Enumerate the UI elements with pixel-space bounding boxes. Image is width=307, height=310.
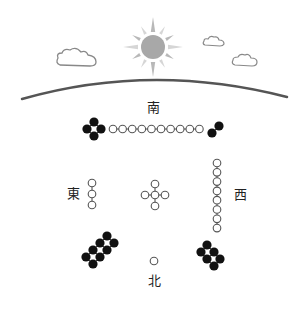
sun-ray — [159, 59, 165, 68]
sun-ray — [159, 26, 165, 35]
cloud-icon — [232, 54, 257, 66]
black-dot — [88, 259, 97, 268]
white-dot — [167, 125, 175, 133]
black-dot — [209, 261, 218, 270]
white-dot — [128, 125, 136, 133]
black-dot — [215, 254, 224, 263]
white-dot — [141, 191, 149, 199]
white-dot — [213, 187, 221, 195]
sun-ray — [141, 26, 147, 35]
black-dot — [89, 117, 98, 126]
white-dot — [196, 125, 204, 133]
black-dot — [96, 124, 105, 133]
white-dot — [213, 224, 221, 232]
black-dot — [109, 238, 118, 247]
black-dot — [81, 252, 90, 261]
white-dot — [150, 257, 158, 265]
black-dot — [82, 124, 91, 133]
luoshu-diagram: 南 東 西 北 — [0, 0, 307, 310]
white-dot — [157, 125, 165, 133]
white-dot — [186, 125, 194, 133]
black-dot — [202, 254, 211, 263]
black-dot — [202, 240, 211, 249]
white-dot — [88, 179, 96, 187]
white-dot — [213, 215, 221, 223]
white-dot — [213, 169, 221, 177]
black-dot — [102, 231, 111, 240]
white-dot — [213, 196, 221, 204]
label-south: 南 — [147, 100, 160, 115]
sun-ray — [168, 45, 183, 49]
east-white-column — [88, 179, 96, 209]
sun-ray — [132, 53, 141, 59]
black-dot — [214, 121, 223, 130]
white-dot — [161, 191, 169, 199]
sun-ray — [165, 35, 174, 41]
black-dot — [102, 245, 111, 254]
white-dot — [138, 125, 146, 133]
horizon-arc — [22, 80, 287, 99]
north-white-single — [150, 257, 158, 265]
cloud-icon — [203, 36, 224, 46]
black-dot — [207, 128, 216, 137]
black-dot — [95, 238, 104, 247]
south-black-pair — [207, 121, 223, 137]
white-dot — [151, 180, 159, 188]
sun-ray — [123, 45, 138, 49]
black-dot — [196, 247, 205, 256]
white-dot — [213, 178, 221, 186]
sun-icon — [123, 17, 183, 77]
center-white-cross — [141, 180, 169, 210]
white-dot — [88, 201, 96, 209]
white-dot — [213, 206, 221, 214]
sun-ray — [151, 17, 155, 32]
cloud-icon — [57, 48, 96, 66]
white-dot — [109, 125, 117, 133]
southwest-black-ladder — [81, 231, 118, 268]
label-north: 北 — [148, 273, 161, 288]
white-dot — [213, 159, 221, 167]
black-dot — [88, 245, 97, 254]
white-dot — [176, 125, 184, 133]
black-dot — [209, 247, 218, 256]
south-white-row — [109, 125, 203, 133]
south-black-cluster — [82, 117, 105, 140]
white-dot — [88, 190, 96, 198]
label-west: 西 — [234, 187, 247, 202]
northeast-black-ladder — [196, 240, 224, 270]
label-east: 東 — [67, 186, 80, 201]
west-white-column — [213, 159, 221, 232]
sun-ray — [151, 62, 155, 77]
black-dot — [89, 131, 98, 140]
white-dot — [148, 125, 156, 133]
black-dot — [95, 252, 104, 261]
white-dot — [151, 191, 159, 199]
dot-groups — [81, 117, 224, 270]
sun-ray — [165, 53, 174, 59]
white-dot — [119, 125, 127, 133]
sun-ray — [141, 59, 147, 68]
white-dot — [151, 202, 159, 210]
sun-ray — [132, 35, 141, 41]
